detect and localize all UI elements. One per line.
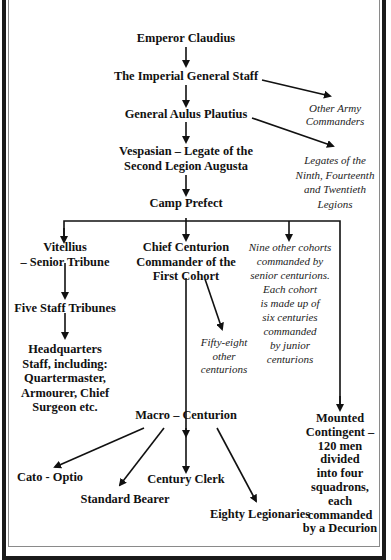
- node-label: Cato - Optio: [17, 470, 83, 484]
- node-label: squadrons,: [300, 481, 380, 495]
- node-standard-bearer: Standard Bearer: [70, 492, 180, 507]
- note-text: and Twentieth: [295, 182, 375, 197]
- node-label: Five Staff Tribunes: [14, 301, 115, 315]
- node-label: Surgeon etc.: [10, 400, 120, 415]
- node-label: General Aulus Plautius: [125, 107, 248, 121]
- note-text: commanded: [245, 324, 335, 338]
- node-label: Macro – Centurion: [135, 408, 237, 422]
- node-label: Second Legion Augusta: [106, 159, 266, 174]
- note-text: Other Army: [300, 102, 370, 115]
- note-text: Fifty-eight: [200, 336, 248, 350]
- node-label: Camp Prefect: [149, 196, 222, 210]
- node-label: divided: [300, 453, 380, 467]
- node-headquarters-staff: Headquarters Staff, including: Quarterma…: [10, 342, 120, 415]
- node-label: Standard Bearer: [81, 492, 170, 506]
- node-label: Quartermaster,: [10, 371, 120, 386]
- node-label: – Senior Tribune: [14, 255, 116, 270]
- node-general-aulus-plautius: General Aulus Plautius: [116, 107, 256, 122]
- node-camp-prefect: Camp Prefect: [136, 196, 236, 211]
- note-other-army-commanders: Other Army Commanders: [300, 102, 370, 128]
- note-text: centurions: [200, 363, 248, 377]
- node-label: Headquarters: [10, 342, 120, 357]
- node-eighty-legionaries: Eighty Legionaries: [200, 507, 320, 522]
- node-cato-optio: Cato - Optio: [10, 470, 90, 485]
- node-vitellius-senior-tribune: Vitellius – Senior Tribune: [14, 240, 116, 269]
- node-label: Emperor Claudius: [137, 31, 235, 45]
- note-text: centurions: [245, 352, 335, 366]
- node-label: Eighty Legionaries: [210, 507, 310, 521]
- node-label: 120 men: [300, 440, 380, 454]
- node-label: Contingent –: [300, 426, 380, 440]
- note-text: Nine other cohorts: [245, 240, 335, 254]
- note-text: Each cohort: [245, 282, 335, 296]
- node-label: Mounted: [300, 412, 380, 426]
- node-emperor-claudius: Emperor Claudius: [136, 31, 236, 46]
- node-label: Armourer, Chief: [10, 386, 120, 401]
- node-label: into four: [300, 467, 380, 481]
- note-text: is made up of: [245, 296, 335, 310]
- node-label: Vitellius: [14, 240, 116, 255]
- note-text: Legates of the: [295, 153, 375, 168]
- note-text: Legions: [295, 197, 375, 212]
- note-fifty-eight-centurions: Fifty-eight other centurions: [200, 336, 248, 377]
- node-label: Century Clerk: [147, 472, 224, 486]
- node-chief-centurion: Chief Centurion Commander of the First C…: [131, 240, 241, 284]
- note-other-legates: Legates of the Ninth, Fourteenth and Twe…: [295, 153, 375, 211]
- node-imperial-general-staff: The Imperial General Staff: [106, 69, 266, 84]
- node-label: First Cohort: [131, 269, 241, 284]
- note-text: six centuries: [245, 310, 335, 324]
- note-text: commanded by: [245, 254, 335, 268]
- note-text: other: [200, 350, 248, 364]
- note-text: Commanders: [300, 115, 370, 128]
- node-label: Commander of the: [131, 255, 241, 270]
- node-label: by a Decurion: [300, 522, 380, 536]
- note-nine-other-cohorts: Nine other cohorts commanded by senior c…: [245, 240, 335, 366]
- note-text: Ninth, Fourteenth: [295, 168, 375, 183]
- node-macro-centurion: Macro – Centurion: [126, 408, 246, 423]
- node-vespasian-legate: Vespasian – Legate of the Second Legion …: [106, 144, 266, 173]
- node-five-staff-tribunes: Five Staff Tribunes: [10, 301, 120, 316]
- node-label: The Imperial General Staff: [114, 69, 258, 83]
- node-century-clerk: Century Clerk: [145, 472, 227, 487]
- node-label: Staff, including:: [10, 357, 120, 372]
- note-text: by junior: [245, 338, 335, 352]
- node-label: Chief Centurion: [131, 240, 241, 255]
- node-label: Vespasian – Legate of the: [106, 144, 266, 159]
- note-text: senior centurions.: [245, 268, 335, 282]
